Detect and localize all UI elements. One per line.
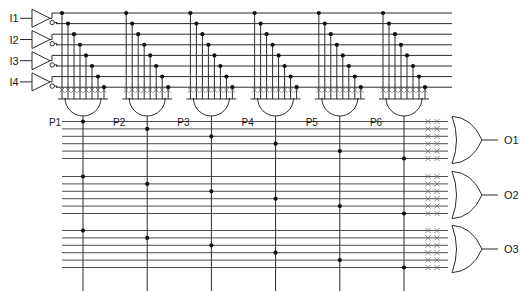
and-tap-dot xyxy=(136,32,140,36)
and-gate-body xyxy=(322,98,358,116)
and-tap-dot xyxy=(399,43,403,47)
and-tap-dot xyxy=(277,53,281,57)
and-tap-dot xyxy=(72,32,76,36)
inverter-bubble xyxy=(50,63,54,67)
and-tap-dot xyxy=(323,22,327,26)
buffer-inverter-triangle-i4 xyxy=(32,73,50,91)
or-gate-body-o2 xyxy=(452,171,482,218)
and-tap-dot xyxy=(329,32,333,36)
and-tap-dot xyxy=(206,43,210,47)
and-gate-body xyxy=(129,98,165,116)
or-gate-body-o3 xyxy=(452,225,482,272)
input-true-line xyxy=(50,55,56,60)
or-program-dot xyxy=(145,127,149,131)
or-program-dot xyxy=(402,211,406,215)
output-label-o1: O1 xyxy=(504,134,519,146)
inverter-bubble xyxy=(50,20,54,24)
product-term-label-p2: P2 xyxy=(113,117,126,128)
and-tap-dot xyxy=(411,64,415,68)
or-plane-lines xyxy=(62,119,448,270)
input-label-i2: I2 xyxy=(9,34,18,46)
or-program-dot xyxy=(81,119,85,123)
and-tap-dot xyxy=(353,75,357,79)
or-program-dot xyxy=(402,156,406,160)
label-layer: I1I2I3I4P1P2P3P4P5P6O1O2O3 xyxy=(9,12,518,255)
and-gate-body xyxy=(193,98,229,116)
product-term-label-p6: P6 xyxy=(370,117,383,128)
and-tap-dot xyxy=(335,43,339,47)
and-tap-dot xyxy=(212,53,216,57)
or-program-dot xyxy=(338,258,342,262)
or-program-dot xyxy=(209,189,213,193)
inverter-bubble xyxy=(50,42,54,46)
and-tap-dot xyxy=(154,64,158,68)
or-program-dot xyxy=(209,134,213,138)
and-tap-dot xyxy=(387,22,391,26)
product-term-label-p4: P4 xyxy=(241,117,254,128)
and-tap-dot xyxy=(188,11,192,15)
or-program-dot xyxy=(274,251,278,255)
or-program-dot xyxy=(402,265,406,269)
input-label-i1: I1 xyxy=(9,12,18,24)
input-label-i3: I3 xyxy=(9,55,18,67)
buffer-inverter-triangle-i3 xyxy=(32,52,50,70)
and-tap-dot xyxy=(60,11,64,15)
and-tap-dot xyxy=(265,32,269,36)
and-gate-body xyxy=(258,98,294,116)
and-tap-dot xyxy=(271,43,275,47)
and-tap-dot xyxy=(283,64,287,68)
and-plane-lines xyxy=(56,11,452,99)
and-tap-dot xyxy=(200,32,204,36)
input-true-line xyxy=(50,34,56,39)
output-label-o2: O2 xyxy=(504,189,519,201)
and-gate-body xyxy=(65,98,101,116)
and-tap-dot xyxy=(148,53,152,57)
or-program-dot xyxy=(145,182,149,186)
and-tap-dot xyxy=(317,11,321,15)
buffer-inverter-triangle-i2 xyxy=(32,31,50,49)
or-program-dot xyxy=(338,149,342,153)
or-gate-body-o1 xyxy=(452,116,482,163)
input-label-i4: I4 xyxy=(9,76,18,88)
input-true-line xyxy=(50,77,56,82)
or-program-dot xyxy=(81,174,85,178)
or-program-dot xyxy=(338,204,342,208)
and-tap-dot xyxy=(381,11,385,15)
or-program-dot xyxy=(274,197,278,201)
or-program-dot xyxy=(274,142,278,146)
and-gate-body xyxy=(386,98,422,116)
and-tap-dot xyxy=(341,53,345,57)
and-tap-dot xyxy=(259,22,263,26)
or-program-dot xyxy=(81,228,85,232)
input-true-line xyxy=(50,13,56,18)
output-label-o3: O3 xyxy=(504,243,519,255)
or-program-dot xyxy=(145,236,149,240)
and-tap-dot xyxy=(405,53,409,57)
and-tap-dot xyxy=(289,75,293,79)
input-section xyxy=(20,9,57,91)
and-tap-dot xyxy=(218,64,222,68)
product-term-label-p5: P5 xyxy=(306,117,319,128)
product-term-label-p1: P1 xyxy=(49,117,62,128)
and-tap-dot xyxy=(224,75,228,79)
and-tap-dot xyxy=(393,32,397,36)
and-tap-dot xyxy=(90,64,94,68)
or-gate-column xyxy=(452,116,498,272)
or-program-dot xyxy=(209,243,213,247)
and-tap-dot xyxy=(78,43,82,47)
and-tap-dot xyxy=(84,53,88,57)
and-tap-dot xyxy=(130,22,134,26)
and-tap-dot xyxy=(96,75,100,79)
and-tap-dot xyxy=(66,22,70,26)
and-tap-dot xyxy=(347,64,351,68)
and-tap-dot xyxy=(124,11,128,15)
buffer-inverter-triangle-i1 xyxy=(32,9,50,27)
and-tap-dot xyxy=(253,11,257,15)
product-term-label-p3: P3 xyxy=(177,117,190,128)
and-tap-dot xyxy=(194,22,198,26)
pla-diagram: I1I2I3I4P1P2P3P4P5P6O1O2O3 xyxy=(0,0,522,291)
inverter-bubble xyxy=(50,84,54,88)
and-tap-dot xyxy=(142,43,146,47)
and-tap-dot xyxy=(417,75,421,79)
and-tap-dot xyxy=(160,75,164,79)
